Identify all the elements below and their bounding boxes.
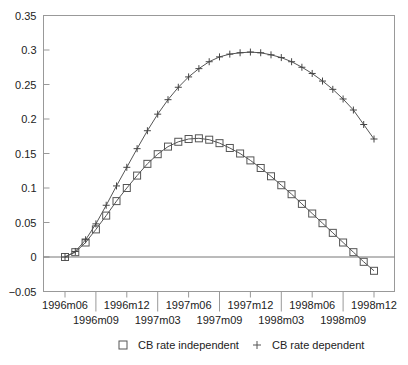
- plus-marker: [371, 136, 378, 143]
- y-tick-label: 0.35: [15, 10, 36, 22]
- plus-marker: [62, 254, 69, 261]
- plus-marker: [154, 111, 161, 118]
- x-tick-label: 1996m12: [104, 299, 150, 311]
- y-tick-label: 0: [30, 251, 36, 263]
- legend-label-independent: CB rate independent: [138, 339, 239, 351]
- plus-marker: [144, 127, 151, 134]
- plus-marker: [360, 121, 367, 128]
- line-chart: −0.0500.050.10.150.20.250.30.35 1996m061…: [0, 0, 408, 335]
- x-tick-label: 1998m06: [289, 299, 335, 311]
- plus-marker: [237, 49, 244, 56]
- legend: CB rate independent CB rate dependent: [0, 338, 408, 356]
- x-tick-label: 1998m12: [351, 299, 397, 311]
- y-tick-label: 0.1: [21, 182, 36, 194]
- square-icon: [116, 338, 130, 352]
- plus-marker: [278, 54, 285, 61]
- plus-marker: [268, 51, 275, 58]
- x-tick-label: 1998m03: [258, 314, 304, 326]
- x-tick-label: 1996m06: [42, 299, 88, 311]
- x-tick-label: 1997m06: [166, 299, 212, 311]
- plus-marker: [103, 202, 110, 209]
- x-tick-label: 1997m03: [135, 314, 181, 326]
- plus-marker: [123, 164, 130, 171]
- plus-marker: [247, 49, 254, 56]
- legend-item-dependent: CB rate dependent: [250, 338, 364, 352]
- y-tick-label: 0.2: [21, 113, 36, 125]
- plus-marker: [288, 58, 295, 65]
- plus-icon: [250, 338, 264, 352]
- series-cb-rate-dependent: [62, 49, 378, 261]
- x-tick-label: 1998m09: [320, 314, 366, 326]
- plus-marker: [113, 182, 120, 189]
- x-tick-label: 1996m09: [73, 314, 119, 326]
- x-tick-label: 1997m12: [227, 299, 273, 311]
- plus-marker: [257, 49, 264, 56]
- y-tick-label: 0.15: [15, 148, 36, 160]
- plus-marker: [226, 51, 233, 58]
- series-layer: [62, 49, 378, 275]
- plus-marker: [309, 70, 316, 77]
- legend-label-dependent: CB rate dependent: [272, 339, 364, 351]
- x-axis: 1996m061996m091996m121997m031997m061997m…: [42, 292, 397, 326]
- plus-marker: [206, 58, 213, 65]
- y-tick-label: 0.3: [21, 44, 36, 56]
- y-tick-label: 0.25: [15, 79, 36, 91]
- plus-marker: [216, 53, 223, 60]
- plus-marker: [298, 64, 305, 71]
- plus-marker: [134, 145, 141, 152]
- y-tick-label: −0.05: [9, 286, 37, 298]
- legend-item-independent: CB rate independent: [116, 338, 239, 352]
- x-tick-label: 1997m09: [197, 314, 243, 326]
- series-cb-rate-independent: [62, 135, 378, 274]
- y-tick-label: 0.05: [15, 217, 36, 229]
